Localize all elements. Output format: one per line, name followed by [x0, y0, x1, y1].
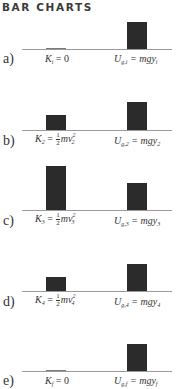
potential-label: Ug,4 = mgy4	[114, 296, 160, 308]
potential-label: Ug,3 = mgy3	[114, 215, 160, 227]
chart-title: BAR CHARTS	[2, 1, 93, 13]
potential-bar	[127, 264, 147, 291]
baseline	[22, 291, 172, 292]
kinetic-label: Ki = 0	[45, 53, 69, 65]
kinetic-label: K2 = 12mv22	[35, 132, 74, 147]
potential-label: Ug,f = mgyf	[114, 375, 158, 387]
row-letter: d)	[3, 294, 15, 310]
potential-bar	[127, 183, 147, 210]
baseline	[22, 130, 172, 131]
kinetic-bar	[46, 166, 66, 210]
kinetic-bar	[46, 115, 66, 130]
potential-bar	[127, 344, 147, 371]
row-letter: c)	[3, 213, 14, 229]
kinetic-label: K4 = 12mv24	[35, 293, 74, 308]
potential-bar	[127, 22, 147, 49]
kinetic-label: K3 = 12mv23	[35, 212, 74, 227]
potential-label: Ug,i = mgyi	[114, 53, 158, 65]
kinetic-bar	[46, 277, 66, 291]
row-letter: a)	[3, 51, 14, 67]
baseline	[22, 210, 172, 211]
baseline	[22, 49, 172, 50]
baseline	[22, 371, 172, 372]
kinetic-label: Kf = 0	[45, 375, 69, 387]
potential-bar	[127, 102, 147, 130]
potential-label: Ug,2 = mgy2	[114, 135, 160, 147]
row-letter: b)	[3, 133, 15, 149]
row-letter: e)	[3, 373, 14, 389]
